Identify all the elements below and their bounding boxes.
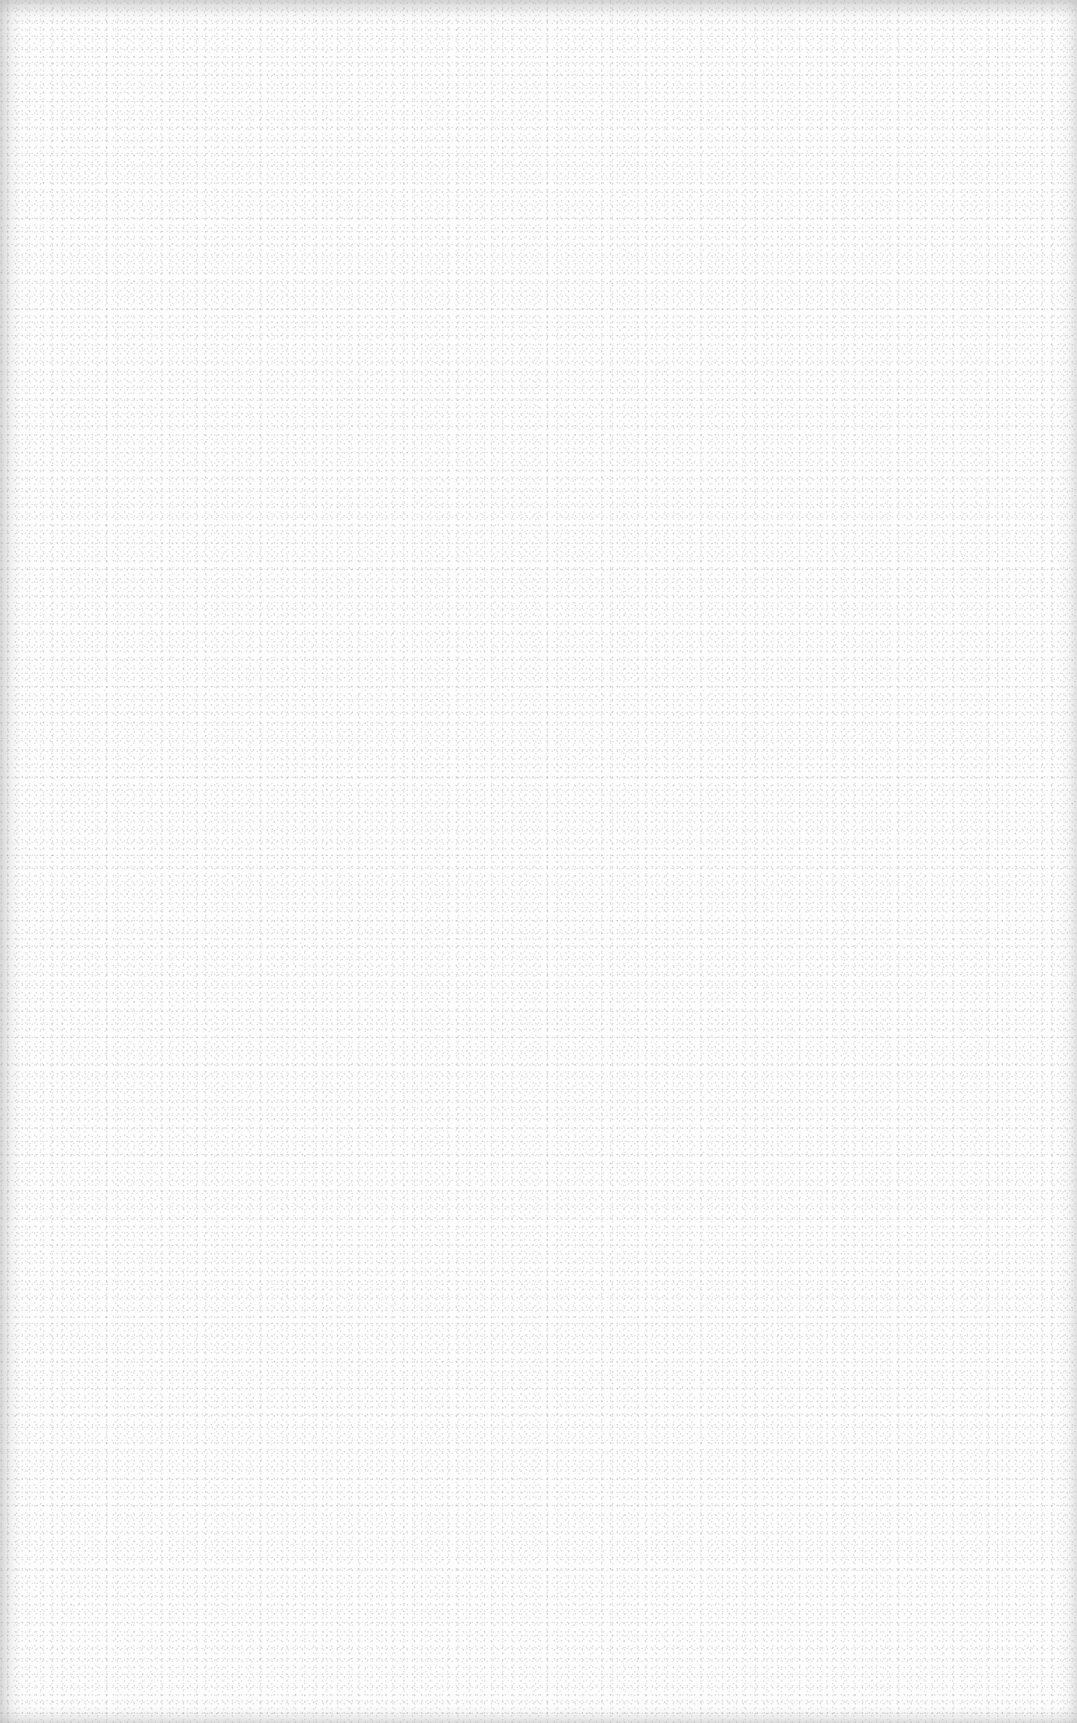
blank-page xyxy=(0,0,1077,1723)
page-content xyxy=(40,40,1037,1683)
